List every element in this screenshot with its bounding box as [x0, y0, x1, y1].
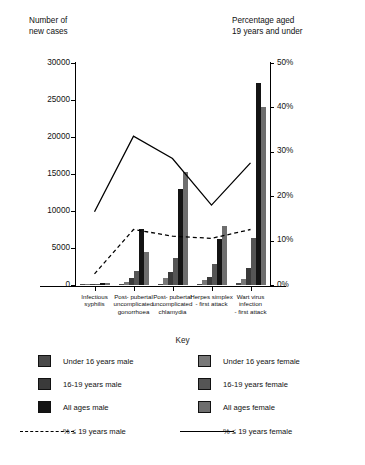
- key-label: % ≤ 19 years male: [63, 427, 126, 436]
- y-axis-right-tick: [270, 241, 274, 242]
- x-axis-tick: [95, 286, 96, 291]
- key-label: Under 16 years female: [223, 357, 300, 366]
- y-axis-right-ticklabel: 40%: [277, 102, 293, 111]
- line-series-female: [95, 136, 251, 211]
- y-axis-left-ticklabel: 0: [20, 280, 70, 289]
- left-axis-title: Number of new cases: [29, 16, 68, 37]
- y-axis-left-ticklabel: 15000: [20, 169, 70, 178]
- key-title: Key: [0, 336, 365, 345]
- x-axis-category-label: Wart virus infection - first attack: [224, 293, 278, 315]
- y-axis-left-tick: [71, 285, 75, 286]
- y-axis-right-tick: [270, 152, 274, 153]
- y-axis-right-ticklabel: 20%: [277, 191, 293, 200]
- y-axis-right-ticklabel: 0%: [277, 280, 289, 289]
- y-axis-right-tick: [270, 285, 274, 286]
- plot-area: [75, 63, 270, 285]
- right-axis-title: Percentage aged 19 years and under: [232, 16, 303, 37]
- y-axis-left-ticklabel: 5000: [20, 243, 70, 252]
- y-axis-right-ticklabel: 10%: [277, 235, 293, 244]
- y-axis-left-ticklabel: 30000: [20, 58, 70, 67]
- y-axis-left-ticklabel: 20000: [20, 132, 70, 141]
- key-label: % ≤ 19 years female: [223, 427, 292, 436]
- key-swatch: [38, 401, 51, 413]
- key-label: All ages male: [63, 403, 109, 412]
- lines-layer: [75, 63, 270, 285]
- y-axis-right-tick: [270, 196, 274, 197]
- key-swatch: [38, 378, 51, 390]
- line-series-male: [95, 230, 251, 274]
- key-swatch: [198, 378, 211, 390]
- x-axis: [40, 286, 286, 287]
- x-axis-tick: [173, 286, 174, 291]
- chart-container: Number of new cases Percentage aged 19 y…: [0, 0, 365, 465]
- key-label: 16-19 years male: [63, 380, 122, 389]
- x-axis-tick: [134, 286, 135, 291]
- key-swatch: [198, 355, 211, 367]
- y-axis-left-ticklabel: 10000: [20, 206, 70, 215]
- key-swatch: [38, 355, 51, 367]
- key-label: Under 16 years male: [63, 357, 134, 366]
- x-axis-tick: [212, 286, 213, 291]
- x-axis-tick: [251, 286, 252, 291]
- y-axis-left-ticklabel: 25000: [20, 95, 70, 104]
- y-axis-right-ticklabel: 30%: [277, 146, 293, 155]
- y-axis-right-tick: [270, 107, 274, 108]
- key-label: All ages female: [223, 403, 275, 412]
- key-swatch: [198, 401, 211, 413]
- key-label: 16-19 years female: [223, 380, 288, 389]
- y-axis-right-tick: [270, 63, 274, 64]
- y-axis-right-ticklabel: 50%: [277, 58, 293, 67]
